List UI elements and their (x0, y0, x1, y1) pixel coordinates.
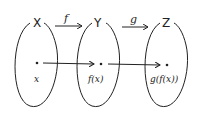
set-z-label: Z (162, 16, 170, 30)
set-y-ellipse (77, 23, 120, 107)
point-fx (100, 63, 103, 66)
set-x-ellipse (15, 23, 58, 107)
point-x (36, 62, 39, 65)
point-gfx (166, 64, 169, 67)
element-arrow-g (108, 64, 160, 65)
element-fx-label: f(x) (87, 74, 104, 84)
element-arrow-f (43, 63, 94, 64)
set-y-label: Y (93, 16, 102, 30)
function-composition-diagram: X Y Z f g x f(x) g(f(x)) (0, 0, 197, 118)
map-f-label: f (63, 12, 70, 25)
map-g-label: g (130, 13, 137, 26)
set-x-label: X (33, 16, 41, 30)
element-gfx-label: g(f(x)) (150, 74, 179, 84)
element-x-label: x (34, 74, 39, 84)
